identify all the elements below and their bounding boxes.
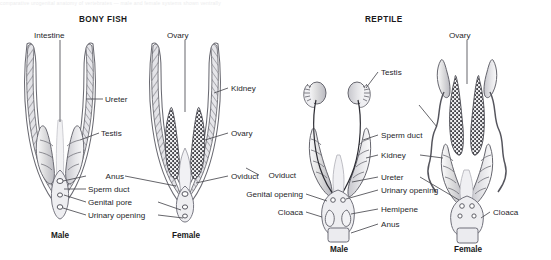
sex-label-reptile-male: Male xyxy=(330,245,348,254)
label-reptile-kidney: Kidney xyxy=(381,151,406,160)
label-fish-ovary-right: Ovary xyxy=(231,129,253,138)
label-fish-sperm-duct: Sperm duct xyxy=(88,185,129,194)
label-reptile-cloaca-left: Cloaca xyxy=(278,208,303,217)
label-fish-anus: Anus xyxy=(106,172,124,181)
label-reptile-urinary-opening: Urinary opening xyxy=(381,186,438,195)
label-reptile-anus: Anus xyxy=(381,220,399,229)
panel-title-bony-fish: BONY FISH xyxy=(79,15,127,24)
figure-canvas: comparative urogenital anatomy of verteb… xyxy=(0,0,551,260)
label-reptile-oviduct: Oviduct xyxy=(269,171,296,180)
label-fish-ureter: Ureter xyxy=(105,95,128,104)
sex-label-reptile-female: Female xyxy=(454,245,482,254)
label-fish-genital-pore: Genital pore xyxy=(88,198,132,207)
label-reptile-ovary: Ovary xyxy=(449,31,471,40)
label-fish-oviduct: Oviduct xyxy=(231,172,258,181)
label-fish-urinary-opening: Urinary opening xyxy=(88,211,145,220)
sex-label-fish-female: Female xyxy=(172,231,200,240)
label-reptile-ureter: Ureter xyxy=(381,173,404,182)
label-reptile-genital-opening: Genital opening xyxy=(246,190,303,199)
label-reptile-testis: Testis xyxy=(381,68,402,77)
panel-title-reptile: REPTILE xyxy=(365,15,403,24)
label-fish-ovary-top: Ovary xyxy=(167,31,189,40)
label-reptile-cloaca-right: Cloaca xyxy=(493,208,518,217)
sex-label-fish-male: Male xyxy=(51,231,69,240)
label-fish-intestine: Intestine xyxy=(34,31,65,40)
label-fish-kidney: Kidney xyxy=(231,84,256,93)
reptile-male-specimen xyxy=(304,82,371,242)
label-fish-testis: Testis xyxy=(101,129,122,138)
label-reptile-sperm-duct: Sperm duct xyxy=(381,131,422,140)
label-reptile-hemipene: Hemipene xyxy=(381,205,418,214)
